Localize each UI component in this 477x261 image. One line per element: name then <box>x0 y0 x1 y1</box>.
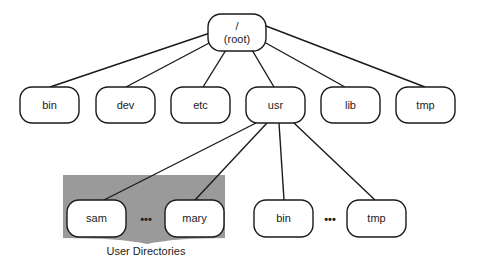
node-label: lib <box>345 99 356 111</box>
node-label: bin <box>276 212 291 224</box>
node-label: mary <box>182 212 207 224</box>
node-mary[interactable]: mary <box>165 200 224 237</box>
node-root[interactable]: / (root) <box>208 14 266 51</box>
user-directories-label: User Directories <box>107 245 186 257</box>
node-label: usr <box>268 99 284 111</box>
node-usr-tmp[interactable]: tmp <box>347 200 406 237</box>
node-usr[interactable]: usr <box>246 87 305 123</box>
node-label: dev <box>117 99 135 111</box>
ellipsis-user-dirs: ••• <box>140 213 152 225</box>
node-dev[interactable]: dev <box>96 87 155 123</box>
root-label-root: (root) <box>224 33 250 45</box>
node-label: tmp <box>416 99 434 111</box>
node-label: bin <box>42 99 57 111</box>
node-usr-bin[interactable]: bin <box>254 200 313 237</box>
ellipsis-usr-dirs: ••• <box>324 213 336 225</box>
node-label: etc <box>193 99 208 111</box>
node-lib[interactable]: lib <box>321 87 380 123</box>
node-etc[interactable]: etc <box>171 87 230 123</box>
node-label: sam <box>86 212 107 224</box>
node-bin[interactable]: bin <box>20 87 79 123</box>
node-tmp[interactable]: tmp <box>396 87 455 123</box>
node-label: tmp <box>367 212 385 224</box>
node-sam[interactable]: sam <box>67 200 126 237</box>
directory-tree-diagram: / (root) bin dev etc usr lib tmp sam •••… <box>0 0 477 261</box>
